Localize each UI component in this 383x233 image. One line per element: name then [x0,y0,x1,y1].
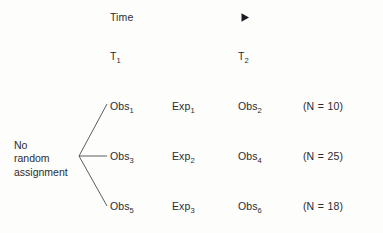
row-3-sample-size-equals: = [314,200,327,212]
row-3-posttest-sub: 6 [258,206,262,215]
time-point-t2-sub: 2 [245,56,249,65]
row-1-sample-size-value: 10) [328,100,343,112]
group-assignment-label: No random assignment [14,139,68,179]
row-3-posttest-base: Obs [238,200,258,212]
row-2-posttest-base: Obs [238,150,258,162]
row-1-sample-size: (N=10) [303,100,343,113]
row-1-pretest-base: Obs [110,100,130,112]
row-3-pretest: Obs5 [110,200,134,214]
row-2-sample-size-equals: = [314,150,327,162]
time-point-t2-base: T [238,50,245,62]
branch-line-row3 [79,156,107,206]
row-2-treatment: Exp2 [172,150,195,164]
row-3-treatment-base: Exp [172,200,190,212]
row-3-sample-size: (N=18) [303,200,343,213]
row-1-sample-size-open: (N [303,100,314,112]
design-diagram: Time T1 T2 No random assignment Obs1 Exp… [0,0,383,233]
time-point-t2: T2 [238,50,249,64]
row-2-pretest-base: Obs [110,150,130,162]
diagram-lines [0,0,383,233]
row-2-treatment-base: Exp [172,150,190,162]
row-2-sample-size: (N=25) [303,150,343,163]
row-2-posttest-sub: 4 [258,156,262,165]
row-3-treatment: Exp3 [172,200,195,214]
row-3-sample-size-open: (N [303,200,314,212]
row-1-pretest: Obs1 [110,100,134,114]
row-3-pretest-sub: 5 [130,206,134,215]
row-2-pretest: Obs3 [110,150,134,164]
row-1-posttest-sub: 2 [258,106,262,115]
row-2-sample-size-value: 25) [328,150,343,162]
row-1-treatment: Exp1 [172,100,195,114]
time-point-t1-sub: 1 [117,56,121,65]
row-3-pretest-base: Obs [110,200,130,212]
row-1-posttest: Obs2 [238,100,262,114]
row-1-sample-size-equals: = [314,100,327,112]
branch-line-row1 [79,104,107,156]
time-point-t1: T1 [110,50,121,64]
row-1-posttest-base: Obs [238,100,258,112]
time-arrow-head [242,13,250,22]
row-2-sample-size-open: (N [303,150,314,162]
row-3-posttest: Obs6 [238,200,262,214]
time-point-t1-base: T [110,50,117,62]
row-2-treatment-sub: 2 [190,156,194,165]
row-1-pretest-sub: 1 [130,106,134,115]
row-2-pretest-sub: 3 [130,156,134,165]
row-3-sample-size-value: 18) [328,200,343,212]
row-1-treatment-sub: 1 [190,106,194,115]
row-3-treatment-sub: 3 [190,206,194,215]
row-1-treatment-base: Exp [172,100,190,112]
row-2-posttest: Obs4 [238,150,262,164]
time-axis-label: Time [110,11,133,24]
